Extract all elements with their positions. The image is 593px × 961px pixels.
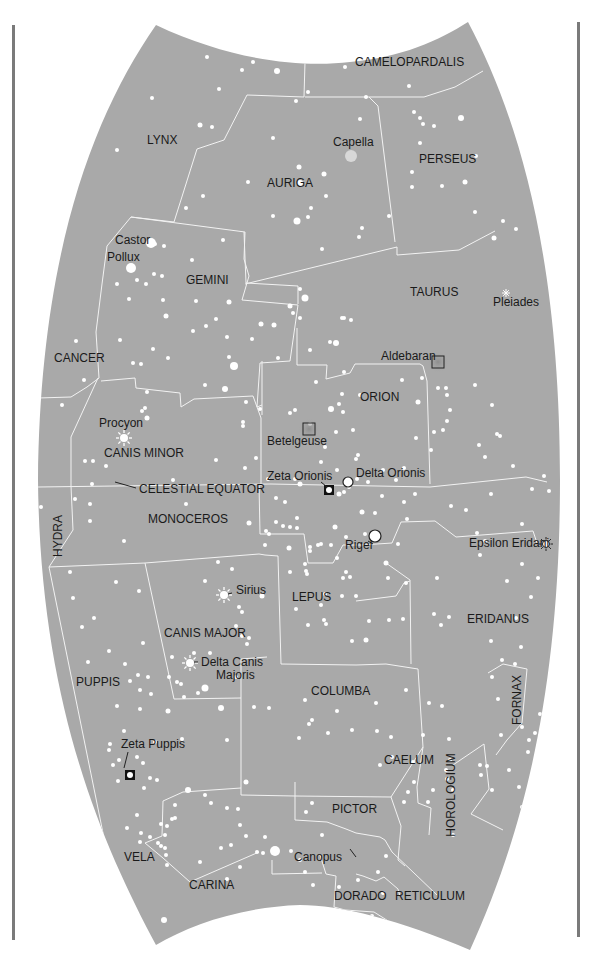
star xyxy=(146,675,150,679)
star xyxy=(39,505,43,509)
star xyxy=(225,806,229,810)
star xyxy=(335,709,339,713)
star xyxy=(238,823,242,827)
star-label: Capella xyxy=(333,135,374,149)
star xyxy=(389,735,393,739)
star xyxy=(92,616,96,620)
star xyxy=(145,416,150,421)
star xyxy=(148,835,152,839)
star xyxy=(432,612,436,616)
star xyxy=(473,210,477,214)
capella-marker-icon xyxy=(345,150,357,162)
star xyxy=(448,408,452,412)
star xyxy=(125,826,129,830)
constellation-label: HYDRA xyxy=(51,515,65,557)
star xyxy=(427,701,431,705)
star xyxy=(73,497,77,501)
star xyxy=(151,347,155,351)
star xyxy=(536,576,540,580)
star xyxy=(137,589,141,593)
star xyxy=(88,502,92,506)
star xyxy=(209,801,213,805)
star xyxy=(485,764,489,768)
star xyxy=(529,595,533,599)
star xyxy=(436,386,440,390)
star xyxy=(152,272,156,276)
star xyxy=(218,705,224,711)
star xyxy=(384,561,389,566)
star xyxy=(298,287,302,291)
star xyxy=(227,355,231,359)
star xyxy=(489,639,493,643)
star xyxy=(435,576,439,580)
star xyxy=(370,914,374,918)
star xyxy=(165,863,169,867)
constellation-label: LYNX xyxy=(147,133,177,147)
star xyxy=(203,383,207,387)
star xyxy=(294,218,301,225)
zeta-orionis-marker-icon xyxy=(324,485,334,495)
star-label: Canopus xyxy=(294,850,342,864)
star xyxy=(447,615,451,619)
pollux-marker-icon xyxy=(126,263,136,273)
star xyxy=(240,68,244,72)
star xyxy=(526,750,530,754)
star xyxy=(511,464,515,468)
star xyxy=(196,691,200,695)
star xyxy=(440,184,444,188)
star xyxy=(115,148,119,152)
star xyxy=(138,707,142,711)
star xyxy=(288,411,292,415)
star xyxy=(547,489,551,493)
constellation-label: DORADO xyxy=(334,889,387,903)
star xyxy=(167,675,171,679)
star xyxy=(473,383,477,387)
star xyxy=(386,576,390,580)
constellation-label: CARINA xyxy=(189,878,234,892)
star xyxy=(334,430,338,434)
star xyxy=(498,434,502,438)
star xyxy=(254,456,258,460)
star xyxy=(295,516,299,520)
star xyxy=(288,525,292,529)
star xyxy=(289,849,293,853)
star xyxy=(88,519,92,523)
star xyxy=(141,761,145,765)
star xyxy=(310,718,314,722)
star xyxy=(517,785,521,789)
constellation-label: GEMINI xyxy=(186,273,229,287)
constellation-label: CANIS MAJOR xyxy=(164,626,246,640)
star xyxy=(173,816,177,820)
star xyxy=(138,688,142,692)
star xyxy=(246,180,250,184)
star xyxy=(478,553,482,557)
star xyxy=(128,679,132,683)
star xyxy=(303,562,307,566)
star-label: Procyon xyxy=(99,416,143,430)
star-chart: CAMELOPARDALISLYNXAURIGAPERSEUSGEMINITAU… xyxy=(0,0,593,961)
star xyxy=(319,460,323,464)
constellation-label: LEPUS xyxy=(292,590,331,604)
star xyxy=(507,768,511,772)
star xyxy=(117,758,121,762)
star xyxy=(240,610,244,614)
star xyxy=(219,846,223,850)
star-label: Epsilon Eridani xyxy=(469,536,549,550)
star xyxy=(214,458,218,462)
star xyxy=(440,704,444,708)
star xyxy=(82,378,86,382)
star xyxy=(271,214,275,218)
star xyxy=(123,662,127,666)
star xyxy=(337,492,342,497)
star-label: Pleiades xyxy=(493,295,539,309)
star xyxy=(342,490,346,494)
star xyxy=(310,801,314,805)
delta-orionis-marker-icon xyxy=(343,477,353,487)
star xyxy=(143,406,147,410)
star xyxy=(341,410,345,414)
star xyxy=(298,316,302,320)
star xyxy=(263,835,267,839)
star-label: Zeta Puppis xyxy=(121,737,185,751)
star xyxy=(376,870,380,874)
constellation-label: CAMELOPARDALIS xyxy=(355,55,464,69)
